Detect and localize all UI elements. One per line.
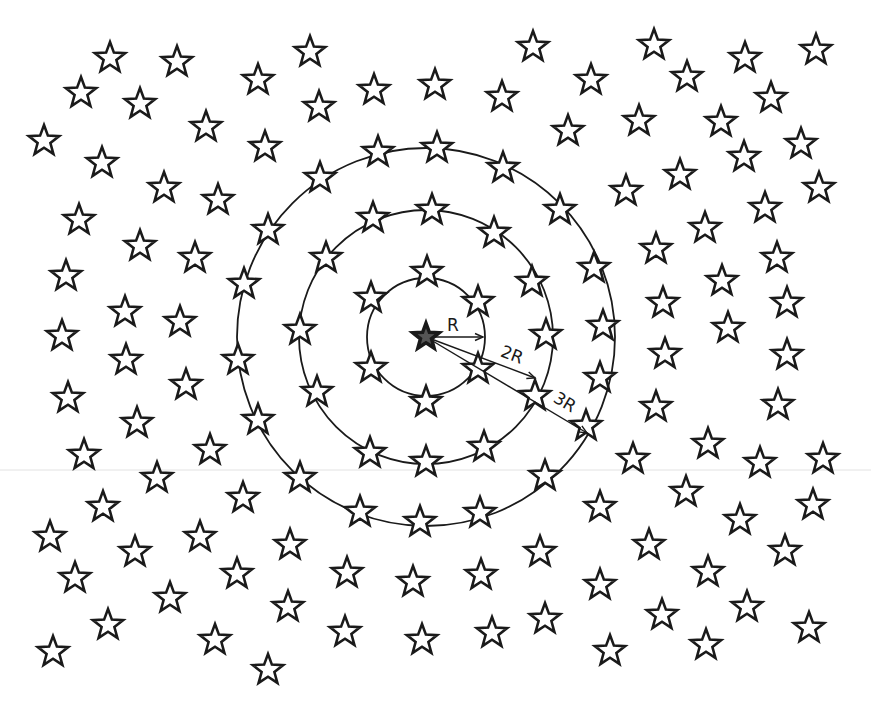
star-icon: [356, 282, 386, 311]
star-icon: [47, 320, 77, 349]
star-icon: [517, 266, 547, 295]
star-icon: [730, 42, 760, 71]
star-icon: [729, 141, 759, 170]
star-icon: [713, 312, 743, 341]
star-icon: [611, 175, 641, 204]
star-icon: [122, 407, 152, 436]
star-icon: [466, 559, 496, 588]
star-icon: [665, 159, 695, 188]
star-icon: [690, 212, 720, 241]
star-icon: [35, 521, 65, 550]
star-icon: [185, 521, 215, 550]
star-icon: [125, 88, 155, 117]
star-icon: [64, 204, 94, 233]
star-icon: [770, 535, 800, 564]
star-icon: [363, 136, 393, 165]
star-icon: [693, 556, 723, 585]
radius-label: R: [447, 315, 459, 335]
star-icon: [576, 64, 606, 93]
star-icon: [794, 612, 824, 641]
radius-label: 3R: [550, 387, 580, 416]
star-icon: [756, 82, 786, 111]
star-icon: [571, 410, 601, 439]
star-icon: [762, 242, 792, 271]
star-icon: [487, 81, 517, 110]
star-icon: [585, 491, 615, 520]
star-icon: [411, 386, 441, 415]
star-icon: [624, 105, 654, 134]
radius-markers: R2R3R: [411, 315, 587, 433]
star-icon: [725, 504, 755, 533]
star-icon: [618, 443, 648, 472]
star-icon: [332, 557, 362, 586]
star-icon: [772, 287, 802, 316]
star-icon: [253, 654, 283, 683]
star-icon: [155, 582, 185, 611]
star-icon: [304, 91, 334, 120]
star-icon: [634, 529, 664, 558]
star-icon: [229, 268, 259, 297]
star-icon: [285, 314, 315, 343]
star-icon: [53, 382, 83, 411]
star-icon: [641, 391, 671, 420]
star-icon: [477, 617, 507, 646]
star-icon: [530, 603, 560, 632]
star-icon: [165, 306, 195, 335]
star-icon: [142, 462, 172, 491]
star-icon: [66, 77, 96, 106]
star-icon: [38, 636, 68, 665]
star-field: [29, 29, 838, 683]
star-icon: [763, 389, 793, 418]
star-icon: [407, 624, 437, 653]
star-icon: [801, 34, 831, 63]
star-icon: [120, 536, 150, 565]
star-icon: [707, 265, 737, 294]
star-icon: [422, 132, 452, 161]
star-icon: [243, 404, 273, 433]
star-icon: [223, 344, 253, 373]
star-icon: [641, 233, 671, 262]
star-icon: [691, 629, 721, 658]
star-icon: [488, 152, 518, 181]
star-icon: [595, 635, 625, 664]
star-icon: [69, 439, 99, 468]
star-field-diagram: R2R3R: [0, 0, 871, 715]
star-icon: [420, 69, 450, 98]
star-icon: [250, 131, 280, 160]
star-icon: [149, 172, 179, 201]
star-icon: [243, 64, 273, 93]
star-icon: [275, 529, 305, 558]
star-icon: [228, 482, 258, 511]
star-icon: [355, 437, 385, 466]
star-icon: [650, 338, 680, 367]
star-icon: [200, 624, 230, 653]
star-icon: [585, 362, 615, 391]
star-icon: [405, 506, 435, 535]
star-icon: [93, 609, 123, 638]
star-icon: [273, 591, 303, 620]
star-icon: [60, 562, 90, 591]
star-icon: [479, 217, 509, 246]
star-icon: [191, 111, 221, 140]
star-icon: [808, 443, 838, 472]
star-icon: [518, 31, 548, 60]
star-icon: [51, 260, 81, 289]
star-icon: [672, 61, 702, 90]
star-icon: [330, 616, 360, 645]
star-icon: [786, 128, 816, 157]
star-icon: [411, 446, 441, 475]
star-icon: [305, 162, 335, 191]
star-icon: [706, 106, 736, 135]
radius-label: 2R: [498, 341, 526, 368]
star-icon: [110, 296, 140, 325]
star-icon: [162, 46, 192, 75]
star-icon: [745, 447, 775, 476]
star-icon: [671, 476, 701, 505]
star-icon: [525, 536, 555, 565]
star-icon: [171, 369, 201, 398]
star-icon: [750, 192, 780, 221]
star-icon: [29, 125, 59, 154]
star-icon: [398, 566, 428, 595]
star-icon: [647, 599, 677, 628]
star-icon: [180, 242, 210, 271]
